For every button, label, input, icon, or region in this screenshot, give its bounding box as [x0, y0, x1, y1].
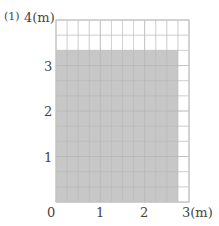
x-tick-2: 2 — [140, 205, 148, 220]
x-tick-1: 1 — [96, 205, 104, 220]
x-axis-label: 3(m) — [182, 205, 213, 220]
problem-label: (1) — [4, 10, 20, 23]
area-diagram: (1) 4(m) 3 2 1 0 1 2 3(m) — [0, 0, 219, 226]
origin-label: 0 — [47, 205, 55, 220]
y-tick-1: 1 — [44, 150, 52, 165]
y-axis-label: 4(m) — [24, 10, 55, 25]
y-tick-3: 3 — [44, 59, 52, 74]
y-tick-2: 2 — [44, 104, 52, 119]
